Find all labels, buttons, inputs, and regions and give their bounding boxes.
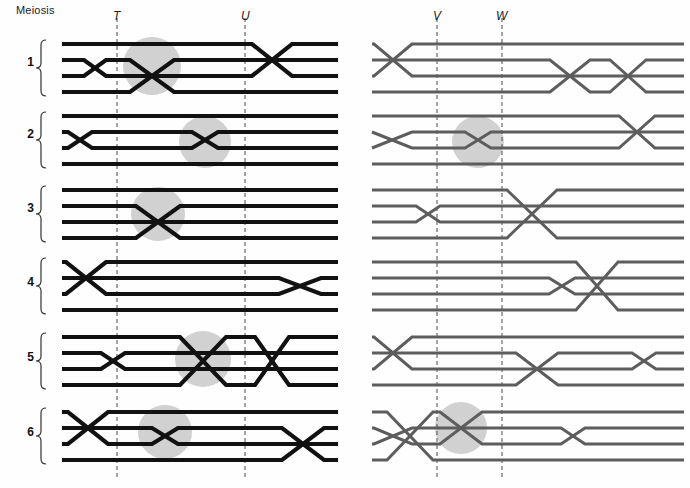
row-brace bbox=[36, 408, 46, 464]
chromatid-strand bbox=[372, 278, 684, 294]
row-brace bbox=[36, 112, 46, 168]
meiosis-row-label-5: 5 bbox=[18, 350, 34, 364]
chromatid-strand bbox=[372, 132, 684, 148]
crossover-highlight bbox=[452, 116, 504, 168]
row-brace bbox=[36, 258, 46, 314]
chromatid-strand bbox=[372, 278, 684, 294]
row-brace bbox=[36, 186, 46, 242]
meiosis-row-label-3: 3 bbox=[18, 201, 34, 215]
meiosis-column-label: Meiosis bbox=[16, 4, 55, 16]
row-brace bbox=[36, 333, 46, 389]
chromatid-strand bbox=[372, 190, 684, 238]
chromatid-strand bbox=[372, 428, 684, 444]
chromatid-strand bbox=[372, 190, 684, 238]
chromatid-strand bbox=[372, 412, 684, 460]
marker-label-W: W bbox=[496, 9, 507, 23]
meiosis-row-label-2: 2 bbox=[18, 127, 34, 141]
meiosis-crossover-figure bbox=[0, 0, 690, 488]
meiosis-row-label-6: 6 bbox=[18, 425, 34, 439]
marker-label-V: V bbox=[433, 9, 441, 23]
chromatid-strand bbox=[372, 262, 684, 310]
meiosis-row-label-4: 4 bbox=[18, 275, 34, 289]
meiosis-row-label-1: 1 bbox=[18, 55, 34, 69]
figure-canvas bbox=[0, 0, 690, 488]
chromatid-strand bbox=[62, 412, 338, 460]
chromatid-strand bbox=[372, 412, 684, 460]
crossover-highlight bbox=[131, 187, 185, 241]
row-brace bbox=[36, 40, 46, 96]
marker-label-T: T bbox=[113, 9, 120, 23]
chromatid-strand bbox=[372, 262, 684, 310]
marker-label-U: U bbox=[241, 9, 250, 23]
